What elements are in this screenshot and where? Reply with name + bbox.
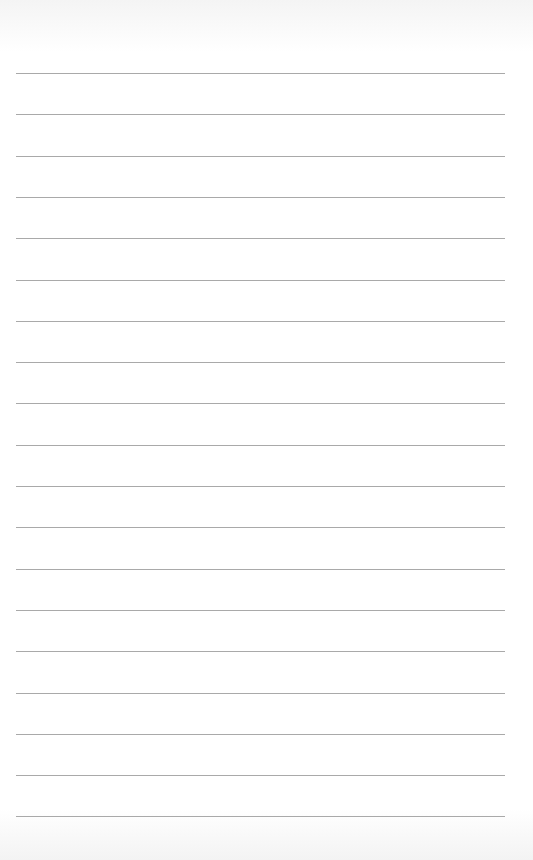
ruled-line: [16, 651, 505, 652]
ruled-line: [16, 610, 505, 611]
ruled-line: [16, 197, 505, 198]
ruled-line: [16, 114, 505, 115]
lined-paper-page: [0, 0, 533, 860]
ruled-line: [16, 321, 505, 322]
ruled-line: [16, 362, 505, 363]
ruled-line: [16, 403, 505, 404]
ruled-line: [16, 734, 505, 735]
ruled-line: [16, 527, 505, 528]
ruled-line: [16, 238, 505, 239]
ruled-line: [16, 73, 505, 74]
ruled-line: [16, 775, 505, 776]
ruled-line: [16, 693, 505, 694]
ruled-line: [16, 816, 505, 817]
ruled-line: [16, 569, 505, 570]
ruled-line: [16, 280, 505, 281]
ruled-line: [16, 486, 505, 487]
ruled-line: [16, 156, 505, 157]
ruled-line: [16, 445, 505, 446]
